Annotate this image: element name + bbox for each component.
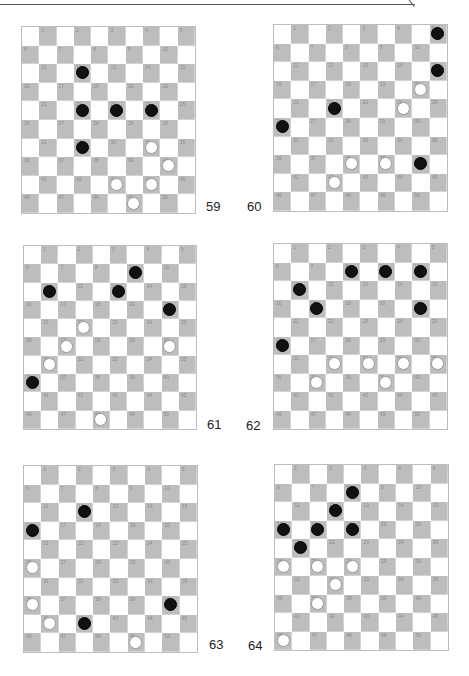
square-number: 45 xyxy=(182,616,188,621)
black-piece xyxy=(346,486,359,499)
square-3: 3 xyxy=(361,465,378,484)
square-29: 29 xyxy=(378,118,395,137)
square-26: 26 xyxy=(24,337,41,355)
diagram-number-64: 64 xyxy=(248,638,262,653)
square-number: 35 xyxy=(181,357,187,362)
black-piece xyxy=(78,505,91,518)
light-square xyxy=(291,81,308,100)
square-11: 11 xyxy=(292,502,309,521)
square-28: 28 xyxy=(93,337,110,355)
light-square xyxy=(344,576,361,595)
square-16: 16 xyxy=(274,81,291,100)
light-square xyxy=(41,411,58,429)
square-number: 18 xyxy=(345,82,351,87)
square-number: 22 xyxy=(328,319,334,324)
square-33: 33 xyxy=(108,139,125,158)
light-square xyxy=(180,485,197,504)
square-number: 37 xyxy=(60,375,66,380)
square-23: 23 xyxy=(361,539,378,558)
black-piece xyxy=(345,265,358,278)
top-rule xyxy=(0,4,415,5)
square-number: 19 xyxy=(129,302,135,307)
square-10: 10 xyxy=(162,264,179,282)
square-18: 18 xyxy=(343,81,360,100)
square-50: 50 xyxy=(412,192,429,211)
light-square xyxy=(160,101,177,120)
light-square xyxy=(57,64,74,83)
square-1: 1 xyxy=(291,244,308,263)
square-number: 8 xyxy=(95,265,98,270)
light-square xyxy=(396,595,413,614)
square-24: 24 xyxy=(145,540,162,559)
light-square xyxy=(309,244,326,263)
square-number: 45 xyxy=(432,175,438,180)
square-32: 32 xyxy=(327,576,344,595)
square-number: 24 xyxy=(146,320,152,325)
square-34: 34 xyxy=(143,139,160,158)
draughts-board-63: 1234567891011121314151617181920212223242… xyxy=(23,465,198,653)
square-number: 2 xyxy=(329,466,332,471)
square-number: 12 xyxy=(328,63,334,68)
light-square xyxy=(76,485,93,504)
square-number: 42 xyxy=(329,614,335,619)
square-number: 50 xyxy=(164,412,170,417)
square-number: 8 xyxy=(345,45,348,50)
light-square xyxy=(360,337,377,356)
square-11: 11 xyxy=(291,62,308,81)
light-square xyxy=(126,176,143,195)
square-31: 31 xyxy=(41,578,58,597)
black-piece xyxy=(329,504,342,517)
square-number: 17 xyxy=(60,302,66,307)
light-square xyxy=(275,539,292,558)
square-13: 13 xyxy=(361,502,378,521)
square-number: 10 xyxy=(414,45,420,50)
square-24: 24 xyxy=(143,101,160,120)
square-number: 1 xyxy=(43,247,46,252)
light-square xyxy=(59,540,76,559)
square-number: 5 xyxy=(181,247,184,252)
light-square xyxy=(412,99,429,118)
white-piece xyxy=(397,357,410,370)
square-45: 45 xyxy=(179,392,196,410)
square-38: 38 xyxy=(344,595,361,614)
square-22: 22 xyxy=(74,101,91,120)
light-square xyxy=(344,613,361,632)
square-49: 49 xyxy=(126,194,143,213)
light-square xyxy=(274,355,291,374)
light-square xyxy=(127,392,144,410)
square-number: 26 xyxy=(26,338,32,343)
square-27: 27 xyxy=(59,559,76,578)
white-piece xyxy=(26,598,39,611)
square-number: 47 xyxy=(311,412,317,417)
square-1: 1 xyxy=(39,27,56,46)
square-number: 25 xyxy=(182,541,188,546)
square-4: 4 xyxy=(144,246,161,264)
square-26: 26 xyxy=(275,558,292,577)
square-11: 11 xyxy=(291,281,308,300)
square-23: 23 xyxy=(360,318,377,337)
light-square xyxy=(180,633,197,652)
light-square xyxy=(108,46,125,65)
light-square xyxy=(274,318,291,337)
square-12: 12 xyxy=(326,62,343,81)
light-square xyxy=(76,596,93,615)
square-44: 44 xyxy=(144,392,161,410)
square-number: 21 xyxy=(43,320,49,325)
square-8: 8 xyxy=(344,484,361,503)
square-18: 18 xyxy=(93,522,110,541)
light-square xyxy=(39,194,56,213)
square-6: 6 xyxy=(22,46,39,65)
light-square xyxy=(360,374,377,393)
square-27: 27 xyxy=(58,337,75,355)
square-50: 50 xyxy=(162,633,179,652)
square-number: 49 xyxy=(129,412,135,417)
square-number: 10 xyxy=(164,486,170,491)
light-square xyxy=(430,192,447,211)
light-square xyxy=(74,194,91,213)
square-number: 16 xyxy=(26,302,32,307)
black-piece xyxy=(414,265,427,278)
light-square xyxy=(41,633,58,652)
square-44: 44 xyxy=(143,176,160,195)
square-25: 25 xyxy=(178,101,195,120)
square-19: 19 xyxy=(378,81,395,100)
